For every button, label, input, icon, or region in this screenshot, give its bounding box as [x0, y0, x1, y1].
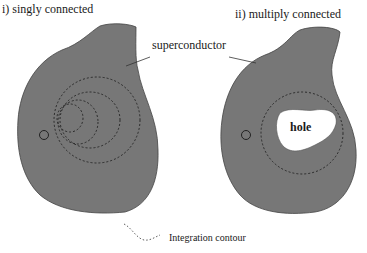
panel-title-multiply: ii) multiply connected	[235, 7, 341, 22]
superconductor-label: superconductor	[152, 38, 226, 53]
superconductor-region-singly	[18, 24, 158, 213]
panel-title-singly: i) singly connected	[2, 2, 93, 17]
dashed-curve-icon	[124, 224, 160, 240]
hole-label: hole	[290, 120, 311, 135]
leader-line-right	[229, 57, 256, 63]
legend-label: Integration contour	[169, 232, 246, 243]
